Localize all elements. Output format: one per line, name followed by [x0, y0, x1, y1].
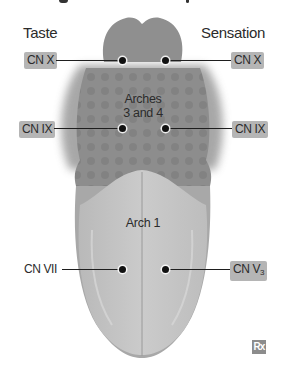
cn-x-sensation-tag: CN X — [231, 52, 264, 69]
cn-vii-taste-tag: CN VII — [21, 261, 60, 278]
cn-ix-taste-tag: CN IX — [19, 121, 55, 138]
cn-x-taste-dot — [119, 57, 126, 64]
cn-ix-sensation-tag: CN IX — [232, 121, 268, 138]
cn-ix-taste-dot — [119, 125, 126, 132]
cn-x-taste-leader — [56, 60, 122, 61]
cn-ix-sensation-leader — [165, 128, 232, 129]
arches-3-and-4-label: Arches 3 and 4 — [115, 92, 171, 120]
posterior-lobe — [103, 18, 182, 62]
cn-x-sensation-dot — [162, 57, 169, 64]
cn-v3-sensation-leader — [165, 269, 230, 270]
cn-x-sensation-leader — [165, 60, 231, 61]
cn-x-taste-tag: CN X — [24, 52, 57, 69]
cn-v3-sensation-tag: CN V3 — [230, 261, 267, 281]
cn-vii-taste-dot — [119, 266, 126, 273]
middle-region — [75, 68, 211, 186]
cn-ix-taste-leader — [54, 128, 122, 129]
cn-v3-sensation-dot — [162, 266, 169, 273]
tongue-innervation-figure: Taste Sensation Arches 3 and 4 Arch 1 CN… — [0, 0, 283, 372]
taste-column-header: Taste — [23, 24, 57, 41]
anterior-region — [79, 170, 208, 355]
rx-icon: Rx — [252, 340, 266, 354]
cn-vii-taste-leader — [62, 269, 122, 270]
sensation-column-header: Sensation — [201, 24, 265, 41]
arch-1-label: Arch 1 — [118, 216, 168, 230]
cn-ix-sensation-dot — [162, 125, 169, 132]
